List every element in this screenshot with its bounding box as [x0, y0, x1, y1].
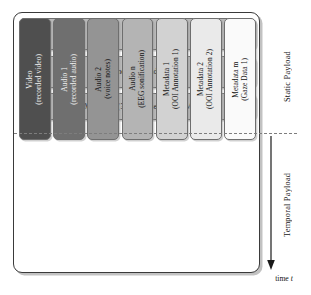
- temporal-payload-columns: Video (recorded video) Audio 1 (recorded…: [19, 18, 256, 140]
- temporal-column-label: Audio 2 (voice notes): [95, 59, 112, 99]
- temporal-column-metadata-1: Metadata 1 (OOI Annotation 1): [156, 18, 188, 140]
- temporal-column-audio-1: Audio 1 (recorded audio): [53, 18, 85, 140]
- static-payload-label: Static Payload: [283, 28, 292, 126]
- temporal-column-label: Audio 1 (recorded audio): [61, 54, 78, 105]
- time-axis-caption-text: time: [275, 274, 290, 283]
- temporal-column-label: Metadata 1 (OOI Annotation 1): [163, 49, 180, 109]
- temporal-payload-label: Temporal Payload: [283, 150, 292, 260]
- temporal-column-metadata-m: Metadata m (Gaze Data 1): [224, 18, 256, 140]
- static-temporal-divider: [14, 133, 297, 134]
- temporal-column-label: Metadata 2 (OOI Annotation 2): [197, 49, 214, 109]
- payload-structure-diagram: Header General Metadata Specific Metadat…: [0, 0, 311, 295]
- time-arrow-icon: [263, 136, 279, 272]
- temporal-column-audio-n: Audio n (EEG sonification): [122, 18, 154, 140]
- time-axis-variable: t: [291, 274, 293, 283]
- payload-container: Header General Metadata Specific Metadat…: [13, 12, 260, 273]
- temporal-column-label: Video (recorded video): [26, 54, 43, 105]
- temporal-column-audio-2: Audio 2 (voice notes): [87, 18, 119, 140]
- temporal-column-label: Metadata m (Gaze Data 1): [232, 58, 249, 101]
- time-axis-caption: time t: [260, 274, 308, 283]
- temporal-column-metadata-2: Metadata 2 (OOI Annotation 2): [190, 18, 222, 140]
- temporal-column-video: Video (recorded video): [19, 18, 51, 140]
- temporal-column-label: Audio n (EEG sonification): [129, 50, 146, 108]
